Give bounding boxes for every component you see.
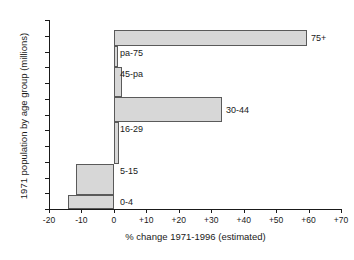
x-tick: [276, 209, 277, 213]
x-axis-title: % change 1971-1996 (estimated): [49, 231, 342, 243]
bar-label-5-15: 5-15: [120, 166, 138, 176]
x-tick: [211, 209, 212, 213]
bar-label-45-pa: 45-pa: [120, 69, 143, 79]
x-tick: [179, 209, 180, 213]
x-tick: [146, 209, 147, 213]
x-tick: [81, 209, 82, 213]
bar-label-0-4: 0-4: [120, 197, 133, 207]
chart-container: 1971 population by age group (millions) …: [0, 0, 354, 260]
x-tick: [309, 209, 310, 213]
plot-area: [49, 20, 341, 209]
bar-75+: [114, 30, 307, 46]
bar-label-pa-75: pa-75: [120, 48, 143, 58]
y-axis-title: 1971 population by age group (millions): [18, 16, 30, 216]
y-tick: [45, 209, 49, 210]
x-tick: [114, 209, 115, 213]
x-tick: [49, 209, 50, 213]
bar-16-29: [114, 122, 119, 164]
bar-label-16-29: 16-29: [120, 124, 143, 134]
bar-5-15: [76, 164, 114, 195]
x-tick: [341, 209, 342, 213]
x-axis-line: [49, 209, 342, 210]
bar-label-75+: 75+: [311, 33, 326, 43]
x-tick-label: +70: [321, 215, 354, 225]
bar-30-44: [114, 97, 222, 122]
bar-label-30-44: 30-44: [226, 105, 249, 115]
x-tick: [244, 209, 245, 213]
bar-pa-75: [114, 46, 118, 67]
bar-0-4: [68, 195, 114, 209]
